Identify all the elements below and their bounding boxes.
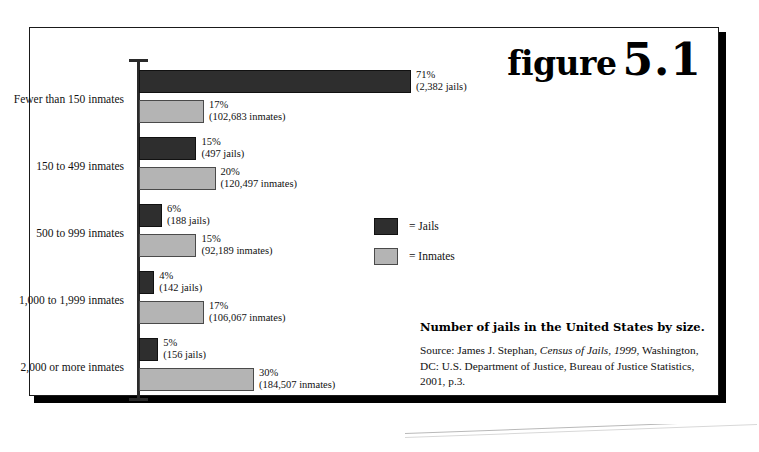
source-title-italic: Census of Jails, 1999 [540,344,637,356]
legend-label: = Jails [409,220,439,232]
bar-percent: 20% [221,166,297,179]
bar-row-jails: 5%(156 jails) [139,337,206,361]
bar-inmates [139,100,204,123]
bar-row-inmates: 17%(102,683 inmates) [139,99,286,123]
bar-value-label: 20%(120,497 inmates) [221,166,297,191]
bar-value-label: 71%(2,382 jails) [416,69,467,94]
bar-row-jails: 71%(2,382 jails) [139,69,467,93]
bar-jails [139,204,162,227]
legend-swatch-inmates [374,248,398,265]
bar-count: (106,067 inmates) [209,312,285,325]
bar-row-jails: 6%(188 jails) [139,203,210,227]
caption-source: Source: James J. Stephan, Census of Jail… [420,343,705,390]
bar-count: (142 jails) [159,282,202,295]
category-label: Fewer than 150 inmates [0,92,124,108]
bar-jails [139,338,158,361]
bar-count: (2,382 jails) [416,81,467,94]
source-prefix: Source: James J. Stephan, [420,344,540,356]
page-fold-decoration [405,424,757,444]
bar-percent: 71% [416,69,467,82]
bar-value-label: 17%(102,683 inmates) [209,99,285,124]
bar-count: (120,497 inmates) [221,178,297,191]
figure-frame: figure 5.1 Fewer than 150 inmates71%(2,3… [29,27,719,396]
caption-block: Number of jails in the United States by … [420,320,705,390]
bar-percent: 5% [163,337,206,350]
bar-count: (497 jails) [201,148,244,161]
bar-row-inmates: 15%(92,189 inmates) [139,233,273,257]
bar-row-inmates: 17%(106,067 inmates) [139,300,286,324]
bar-value-label: 15%(92,189 inmates) [201,233,272,258]
bar-row-inmates: 20%(120,497 inmates) [139,166,297,190]
caption-title: Number of jails in the United States by … [420,320,705,334]
bar-value-label: 15%(497 jails) [201,136,244,161]
bar-group: 150 to 499 inmates15%(497 jails)20%(120,… [30,133,720,200]
category-label: 1,000 to 1,999 inmates [0,293,124,309]
category-label: 500 to 999 inmates [0,226,124,242]
axis-cap-top [129,59,148,62]
bar-jails [139,271,154,294]
bar-inmates [139,301,204,324]
chart-legend: = Jails= Inmates [374,214,455,274]
bar-count: (188 jails) [167,215,210,228]
bar-jails [139,137,196,160]
bar-value-label: 4%(142 jails) [159,270,202,295]
bar-value-label: 30%(184,507 inmates) [259,367,335,392]
bar-group: Fewer than 150 inmates71%(2,382 jails)17… [30,66,720,133]
bar-percent: 30% [259,367,335,380]
bar-count: (92,189 inmates) [201,245,272,258]
legend-item-inmates: = Inmates [374,244,455,268]
legend-label: = Inmates [409,250,455,262]
category-label: 150 to 499 inmates [0,159,124,175]
bar-inmates [139,167,216,190]
bar-inmates [139,234,196,257]
bar-count: (102,683 inmates) [209,111,285,124]
bar-percent: 4% [159,270,202,283]
bar-inmates [139,368,254,391]
bar-value-label: 6%(188 jails) [167,203,210,228]
bar-count: (156 jails) [163,349,206,362]
category-label: 2,000 or more inmates [0,360,124,376]
bar-percent: 17% [209,99,285,112]
bar-percent: 6% [167,203,210,216]
bar-percent: 15% [201,136,244,149]
bar-value-label: 17%(106,067 inmates) [209,300,285,325]
bar-row-jails: 15%(497 jails) [139,136,244,160]
bar-percent: 15% [201,233,272,246]
legend-item-jails: = Jails [374,214,455,238]
bar-percent: 17% [209,300,285,313]
bar-count: (184,507 inmates) [259,379,335,392]
bar-row-inmates: 30%(184,507 inmates) [139,367,335,391]
legend-swatch-jails [374,218,398,235]
bar-jails [139,70,411,93]
bar-value-label: 5%(156 jails) [163,337,206,362]
bar-row-jails: 4%(142 jails) [139,270,202,294]
